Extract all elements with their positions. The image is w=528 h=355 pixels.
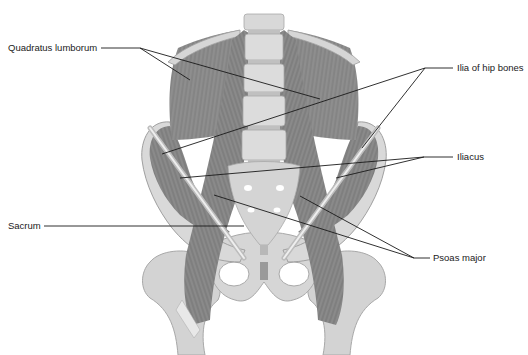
leader-ilia-2 bbox=[362, 68, 425, 148]
obturator-foramen-right bbox=[279, 262, 309, 286]
label-psoas-major: Psoas major bbox=[433, 253, 486, 263]
label-ilia-of-hip-bones: Ilia of hip bones bbox=[457, 63, 524, 73]
lumbar-spine bbox=[242, 14, 286, 164]
label-iliacus: Iliacus bbox=[457, 152, 484, 162]
anatomy-diagram bbox=[0, 0, 528, 355]
pubic-symphysis bbox=[260, 262, 268, 280]
obturator-foramen-left bbox=[219, 262, 249, 286]
label-sacrum: Sacrum bbox=[8, 221, 41, 231]
label-quadratus-lumborum: Quadratus lumborum bbox=[8, 43, 97, 53]
